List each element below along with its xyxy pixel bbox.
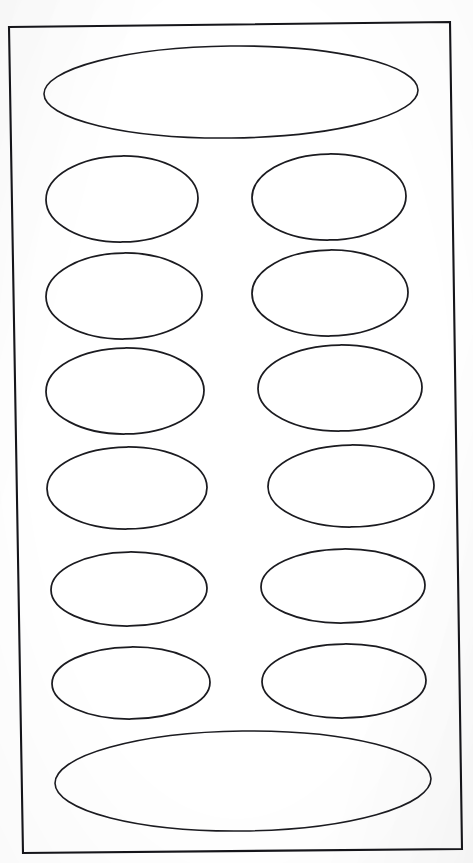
oval-r4-left[interactable] xyxy=(47,446,208,529)
oval-top-banner[interactable] xyxy=(44,44,419,140)
label-sheet-page xyxy=(0,0,473,863)
oval-label-group xyxy=(44,44,435,833)
oval-r5-left[interactable] xyxy=(51,551,208,627)
oval-r6-right[interactable] xyxy=(262,643,427,719)
oval-r2-left[interactable] xyxy=(46,252,203,340)
oval-r2-right[interactable] xyxy=(252,249,409,337)
oval-r1-right[interactable] xyxy=(251,153,406,241)
oval-r3-right[interactable] xyxy=(258,344,423,431)
oval-r5-right[interactable] xyxy=(261,548,426,624)
oval-r4-right[interactable] xyxy=(268,444,435,527)
oval-r6-left[interactable] xyxy=(52,646,211,720)
oval-r3-left[interactable] xyxy=(46,347,205,434)
oval-bottom-banner[interactable] xyxy=(54,729,431,834)
oval-r1-left[interactable] xyxy=(45,155,198,243)
sheet-border-rectangle xyxy=(9,22,462,853)
label-sheet-canvas xyxy=(0,0,473,863)
